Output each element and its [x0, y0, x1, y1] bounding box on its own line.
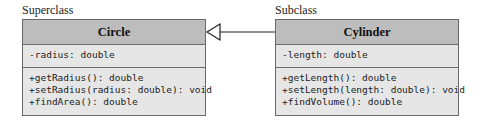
inheritance-arrow	[0, 0, 480, 121]
hollow-triangle-icon	[207, 24, 220, 40]
